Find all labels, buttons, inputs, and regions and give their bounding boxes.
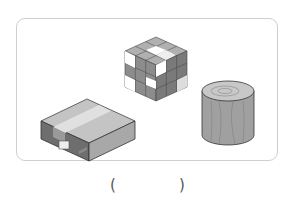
answer-close-paren: ) <box>179 176 185 194</box>
image-frame <box>16 18 278 161</box>
answer-open-paren: ( <box>110 176 116 194</box>
rubiks-cube-icon <box>123 35 189 103</box>
wooden-cylinder-icon <box>199 79 257 149</box>
answer-blank[interactable] <box>120 174 175 196</box>
